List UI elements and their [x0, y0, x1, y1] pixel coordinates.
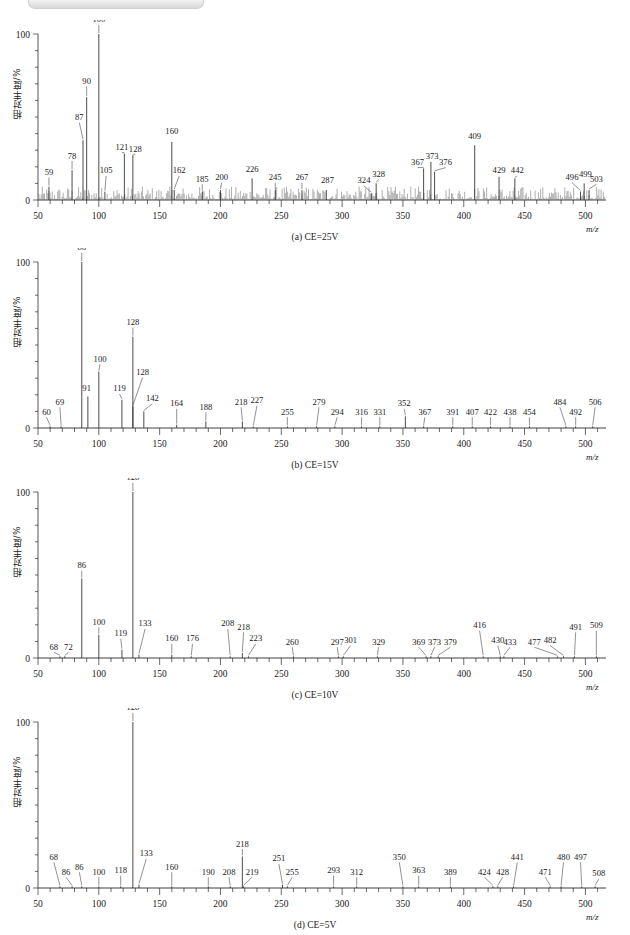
x-tick-label: 300 [335, 669, 350, 679]
peak-label: 60 [42, 407, 51, 417]
peak-leader-line [515, 176, 517, 177]
x-tick-label: 450 [517, 899, 532, 909]
peak-label: 316 [355, 407, 369, 417]
peak-leader-line [399, 862, 403, 885]
x-tick-label: 200 [213, 899, 228, 909]
mass-spectrum-plot: 1000501001502002503003504004505006069869… [0, 248, 630, 453]
peak-label: 428 [496, 867, 509, 877]
x-tick-label: 300 [335, 899, 350, 909]
peak-label: 142 [146, 393, 159, 403]
peak-leader-line [228, 629, 230, 655]
peak-leader-line [65, 652, 69, 655]
peak-leader-line [560, 407, 566, 425]
peak-leader-line [431, 647, 435, 655]
peak-leader-line [595, 879, 599, 885]
peak-leader-line [244, 877, 253, 885]
x-tick-label: 150 [153, 669, 168, 679]
peak-leader-line [498, 877, 503, 885]
x-tick-label: 300 [335, 211, 350, 221]
peak-label: 68 [50, 642, 59, 652]
peak-label: 293 [327, 865, 340, 875]
peak-label: 369 [412, 637, 425, 647]
y-axis-title: 相对丰度/% [10, 296, 23, 347]
peak-label: 90 [82, 76, 91, 86]
peak-label: 133 [139, 618, 152, 628]
y-tick-100: 100 [16, 718, 31, 728]
peak-leader-line [121, 639, 122, 649]
peak-leader-line [545, 877, 550, 885]
peak-label: 391 [446, 407, 459, 417]
window-title-bar [28, 0, 204, 9]
peak-leader-line [139, 629, 145, 654]
y-axis-title: 相对丰度/% [10, 68, 23, 119]
peak-label: 287 [321, 175, 335, 185]
x-tick-label: 100 [92, 211, 107, 221]
peak-label: 86 [62, 867, 71, 877]
peak-label: 430 [491, 635, 504, 645]
x-tick-label: 200 [213, 439, 228, 449]
x-tick-label: 350 [396, 669, 411, 679]
peak-label: 227 [251, 395, 265, 405]
peak-leader-line [419, 647, 426, 655]
peak-label: 497 [574, 852, 588, 862]
peak-leader-line [229, 877, 230, 885]
x-tick-label: 400 [457, 439, 472, 449]
panel-caption: (b) CE=15V [0, 460, 630, 470]
peak-label: 218 [235, 397, 248, 407]
spectrum-panel-d: 1000501001502002503003504004505006886861… [0, 708, 630, 935]
peak-label: 442 [511, 165, 524, 175]
peak-label: 128 [126, 708, 139, 712]
peak-label: 226 [246, 164, 260, 174]
peak-label: 492 [569, 407, 582, 417]
panel-caption: (c) CE=10V [0, 690, 630, 700]
peak-leader-line [480, 631, 484, 656]
peak-label: 438 [504, 407, 517, 417]
peak-leader-line [498, 646, 500, 656]
peak-leader-line [60, 407, 61, 425]
peak-label: 162 [173, 165, 186, 175]
x-tick-label: 450 [517, 669, 532, 679]
peak-label: 86 [77, 560, 86, 570]
peak-label: 128 [136, 367, 149, 377]
peak-label: 119 [113, 383, 126, 393]
peak-label: 160 [165, 633, 178, 643]
peak-label: 367 [418, 407, 432, 417]
peak-label: 255 [281, 407, 294, 417]
peak-label: 429 [493, 165, 506, 175]
peak-label: 454 [523, 407, 537, 417]
peak-leader-line [593, 407, 595, 425]
peak-label: 59 [45, 167, 54, 177]
peak-label: 376 [439, 157, 453, 167]
peak-label: 87 [75, 112, 84, 122]
peak-leader-line [220, 183, 221, 189]
peak-leader-line [335, 417, 337, 425]
peak-label: 373 [426, 151, 439, 161]
peaks: 5978879010010512112816016218520022624526… [45, 20, 603, 200]
peak-leader-line [292, 647, 293, 655]
x-tick-label: 250 [274, 899, 289, 909]
peak-label: 267 [296, 172, 310, 182]
peak-label: 188 [199, 402, 212, 412]
peak-leader-line [504, 647, 510, 655]
x-tick-label: 400 [457, 211, 472, 221]
peak-label: 100 [94, 354, 107, 364]
y-tick-0: 0 [25, 884, 30, 894]
x-tick-label: 350 [396, 211, 411, 221]
peak-leader-line [120, 394, 122, 399]
x-tick-label: 100 [92, 439, 107, 449]
peak-label: 185 [196, 174, 209, 184]
peak-label: 294 [331, 407, 345, 417]
y-axis-title: 相对丰度/% [10, 526, 23, 577]
peak-label: 218 [237, 622, 250, 632]
peak-label: 407 [466, 407, 480, 417]
peak-label: 329 [372, 637, 385, 647]
x-tick-label: 250 [274, 211, 289, 221]
peak-label: 128 [126, 317, 139, 327]
peak-leader-line [287, 877, 292, 885]
peak-leader-line [248, 644, 255, 655]
peak-label: 91 [82, 383, 91, 393]
peak-leader-line [589, 184, 596, 189]
peak-label: 297 [331, 637, 345, 647]
peak-label: 128 [126, 478, 139, 482]
peak-label: 245 [269, 172, 282, 182]
